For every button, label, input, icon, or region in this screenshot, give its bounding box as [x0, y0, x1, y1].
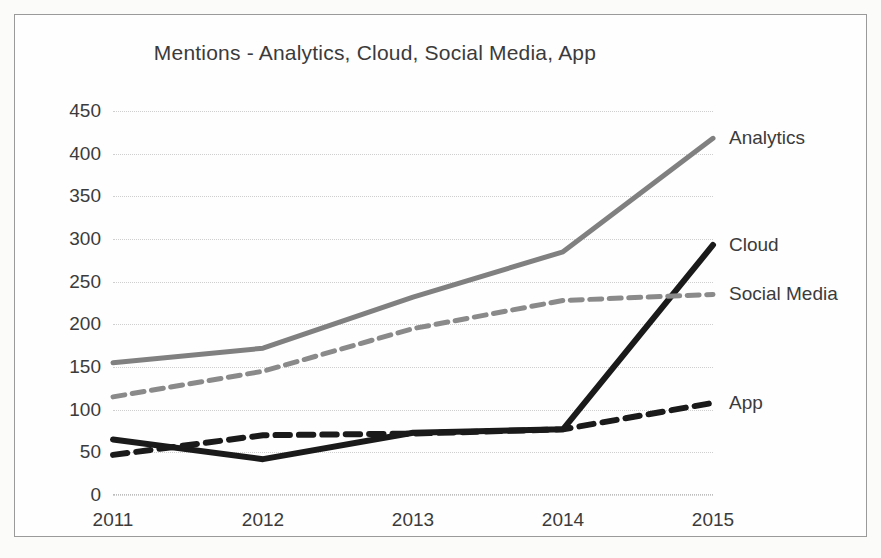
plot-area: 050100150200250300350400450 201120122013…: [113, 111, 713, 495]
y-axis-tick-label: 50: [80, 441, 101, 463]
x-axis-tick-label: 2014: [542, 509, 584, 531]
y-axis-tick-label: 350: [69, 185, 101, 207]
series-line-analytics: [113, 138, 713, 362]
series-line-app: [113, 403, 713, 455]
x-axis-tick-label: 2012: [242, 509, 284, 531]
series-line-social-media: [113, 294, 713, 396]
series-label-app: App: [729, 392, 763, 414]
y-axis-tick-label: 100: [69, 399, 101, 421]
figure-page: Mentions - Analytics, Cloud, Social Medi…: [0, 0, 881, 558]
series-label-analytics: Analytics: [729, 127, 805, 149]
chart-frame: Mentions - Analytics, Cloud, Social Medi…: [14, 14, 867, 537]
y-axis-tick-label: 400: [69, 143, 101, 165]
y-axis-tick-label: 0: [90, 484, 101, 506]
x-axis-tick-label: 2015: [692, 509, 734, 531]
series-lines-group: [113, 111, 713, 495]
series-label-cloud: Cloud: [729, 234, 779, 256]
y-axis-tick-label: 250: [69, 271, 101, 293]
series-label-social-media: Social Media: [729, 283, 838, 305]
y-axis-tick-label: 450: [69, 100, 101, 122]
x-axis-tick-label: 2011: [93, 509, 134, 531]
y-axis-tick-label: 150: [69, 356, 101, 378]
y-axis-tick-label: 200: [69, 313, 101, 335]
x-axis-tick-label: 2013: [392, 509, 434, 531]
gridline: [113, 495, 713, 496]
chart-title: Mentions - Analytics, Cloud, Social Medi…: [15, 41, 735, 65]
y-axis-tick-label: 300: [69, 228, 101, 250]
